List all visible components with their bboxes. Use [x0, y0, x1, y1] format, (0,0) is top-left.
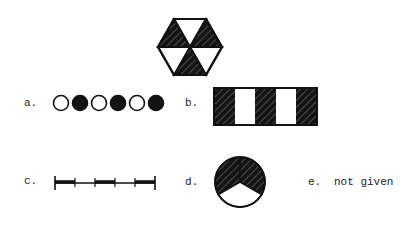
option-a-label: a. [24, 98, 37, 109]
circle-open [92, 96, 107, 111]
option-b-stripes [214, 88, 317, 125]
circle-filled [73, 96, 88, 111]
option-e-text: not given [334, 177, 393, 188]
option-c-line [55, 176, 155, 190]
option-d-circle [215, 157, 265, 207]
stripe-shaded [296, 88, 317, 125]
diagram-stage: a. b. c. d. e. not given [0, 0, 411, 233]
circle-open [54, 96, 69, 111]
option-b-label: b. [185, 98, 198, 109]
circle-filled [149, 96, 164, 111]
option-a-circles [54, 96, 164, 111]
option-d-label: d. [185, 177, 198, 188]
circle-filled [111, 96, 126, 111]
stripe-open [276, 88, 296, 125]
stripe-open [235, 88, 255, 125]
option-e-label: e. [308, 177, 321, 188]
hexagon-figure [158, 19, 222, 75]
diagram-canvas [0, 0, 411, 233]
option-c-label: c. [24, 176, 37, 187]
stripe-shaded [255, 88, 276, 125]
circle-open [130, 96, 145, 111]
stripe-shaded [214, 88, 235, 125]
